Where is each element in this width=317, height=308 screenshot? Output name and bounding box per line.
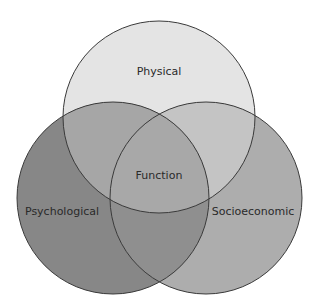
venn-diagram: Physical Psychological Socioeconomic Fun… — [0, 0, 317, 308]
label-socioeconomic: Socioeconomic — [212, 205, 295, 218]
label-psychological: Psychological — [25, 205, 99, 218]
venn-svg: Physical Psychological Socioeconomic Fun… — [0, 0, 317, 308]
label-function: Function — [136, 169, 183, 182]
label-physical: Physical — [137, 65, 182, 78]
